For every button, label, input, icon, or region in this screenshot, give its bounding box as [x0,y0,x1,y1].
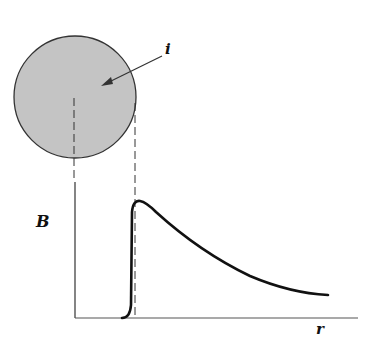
y-axis-label: B [35,212,50,231]
current-label: i [165,40,171,58]
field-curve [122,201,328,318]
field-diagram: i B r [0,0,380,345]
x-axis-label: r [316,320,325,338]
wire-cross-section [14,36,136,158]
